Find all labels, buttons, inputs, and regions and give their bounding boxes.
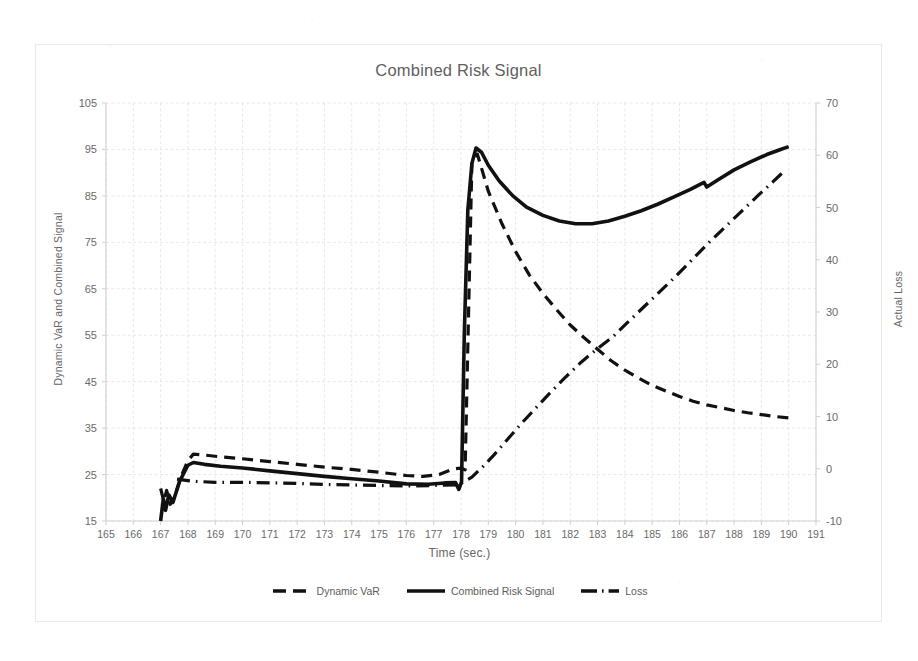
svg-text:183: 183 [589, 528, 607, 540]
svg-text:181: 181 [534, 528, 552, 540]
svg-text:180: 180 [507, 528, 525, 540]
svg-text:175: 175 [370, 528, 388, 540]
svg-text:15: 15 [85, 515, 97, 527]
svg-text:166: 166 [125, 528, 143, 540]
svg-text:45: 45 [85, 376, 97, 388]
series-line-dynamic-var [161, 154, 789, 504]
legend-item-combined-risk-signal[interactable]: Combined Risk Signal [406, 585, 554, 597]
legend-swatch-dashed-icon [272, 586, 312, 596]
svg-text:174: 174 [343, 528, 361, 540]
svg-text:30: 30 [826, 306, 838, 318]
svg-text:50: 50 [826, 202, 838, 214]
svg-text:40: 40 [826, 254, 838, 266]
svg-text:186: 186 [671, 528, 689, 540]
x-axis-title: Time (sec.) [36, 546, 883, 560]
svg-text:167: 167 [152, 528, 170, 540]
svg-text:65: 65 [85, 283, 97, 295]
chart-frame: Combined Risk Signal 1651661671681691701… [35, 44, 882, 622]
svg-text:179: 179 [480, 528, 498, 540]
svg-text:-10: -10 [826, 515, 842, 527]
svg-text:25: 25 [85, 469, 97, 481]
svg-text:172: 172 [288, 528, 306, 540]
legend-label: Combined Risk Signal [451, 585, 554, 597]
y-axis-left-title: Dynamic VaR and Combined Signal [52, 159, 64, 439]
svg-text:178: 178 [452, 528, 470, 540]
svg-text:0: 0 [826, 463, 832, 475]
svg-text:10: 10 [826, 411, 838, 423]
svg-text:169: 169 [206, 528, 224, 540]
legend-label: Loss [625, 585, 647, 597]
svg-text:188: 188 [725, 528, 743, 540]
svg-text:60: 60 [826, 149, 838, 161]
svg-text:191: 191 [807, 528, 825, 540]
svg-text:35: 35 [85, 422, 97, 434]
chart-legend: Dynamic VaRCombined Risk SignalLoss [36, 585, 883, 597]
svg-text:95: 95 [85, 143, 97, 155]
svg-text:182: 182 [561, 528, 579, 540]
svg-text:176: 176 [398, 528, 416, 540]
svg-text:20: 20 [826, 358, 838, 370]
chart-plot-area: 1651661671681691701711721731741751761771… [36, 45, 883, 623]
svg-text:177: 177 [425, 528, 443, 540]
series-line-combined-risk-signal [161, 147, 789, 521]
svg-text:185: 185 [643, 528, 661, 540]
svg-text:187: 187 [698, 528, 716, 540]
svg-text:105: 105 [79, 97, 97, 109]
svg-text:173: 173 [316, 528, 334, 540]
svg-text:75: 75 [85, 236, 97, 248]
legend-swatch-solid-icon [406, 586, 446, 596]
svg-text:165: 165 [97, 528, 115, 540]
legend-swatch-dashdot-icon [580, 586, 620, 596]
data-series [161, 147, 789, 521]
legend-item-loss[interactable]: Loss [580, 585, 647, 597]
svg-text:190: 190 [780, 528, 798, 540]
legend-item-dynamic-var[interactable]: Dynamic VaR [272, 585, 380, 597]
svg-text:70: 70 [826, 97, 838, 109]
svg-text:189: 189 [753, 528, 771, 540]
svg-text:184: 184 [616, 528, 634, 540]
series-line-loss [177, 172, 783, 486]
page-background: Combined Risk Signal 1651661671681691701… [0, 0, 918, 661]
svg-text:85: 85 [85, 190, 97, 202]
svg-text:55: 55 [85, 329, 97, 341]
legend-label: Dynamic VaR [317, 585, 380, 597]
svg-text:170: 170 [234, 528, 252, 540]
y-axis-right-title: Actual Loss [892, 159, 904, 439]
svg-text:171: 171 [261, 528, 279, 540]
svg-text:168: 168 [179, 528, 197, 540]
